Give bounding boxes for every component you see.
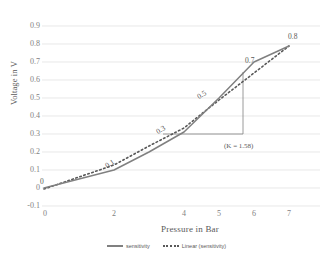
slope-annotation-label: (K = 1.58) [224, 142, 253, 150]
data-label-point-4: 0.7 [245, 57, 254, 65]
chart-legend: sensitivity Linear (sensitivity) [0, 243, 333, 249]
legend-item-linear-trendline[interactable]: Linear (sensitivity) [163, 243, 226, 249]
x-tick-label: 0 [35, 210, 55, 218]
legend-solid-line-icon [107, 245, 123, 247]
legend-label-linear-trendline: Linear (sensitivity) [182, 243, 226, 249]
x-axis-title: Pressure in Bar [60, 224, 320, 234]
x-tick-label: 2 [104, 210, 124, 218]
x-tick-label: 4 [174, 210, 194, 218]
legend-item-sensitivity[interactable]: sensitivity [107, 243, 150, 249]
x-tick-label: 6 [244, 210, 264, 218]
legend-label-sensitivity: sensitivity [126, 243, 150, 249]
x-tick-label: 5 [209, 210, 229, 218]
data-label-point-0: 0 [40, 178, 44, 186]
x-tick-label: 7 [279, 210, 299, 218]
legend-dotted-line-icon [163, 245, 179, 247]
chart-container: Voltage in V 0.9 0.8 0.7 0.6 0.5 0.4 0.3… [0, 0, 333, 260]
data-label-point-5: 0.8 [288, 33, 297, 41]
